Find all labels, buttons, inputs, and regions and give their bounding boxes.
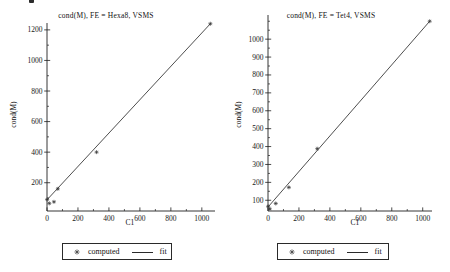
legend-fit-label: fit [375,247,382,256]
legend-computed-label: computed [303,247,335,256]
y-tick-label: 500 [252,124,264,133]
legend-fit-label: fit [160,247,167,256]
legend-computed-label: computed [88,247,120,256]
computed-marker-icon [288,248,296,256]
computed-point [47,201,51,205]
y-tick-label: 600 [252,106,264,115]
plot-area-tet4: 0200400600800100010020030040050060070080… [225,0,450,238]
y-tick-label: 600 [31,117,43,126]
computed-point [287,185,291,189]
y-tick-label: 800 [252,70,264,79]
y-tick-label: 400 [252,142,264,151]
fit-line-sample [347,252,368,253]
y-tick-label: 1000 [28,56,43,65]
y-tick-label: 400 [31,148,43,157]
x-axis-label: C1 [270,218,440,227]
computed-marker-icon [73,248,81,256]
legend-box: computed fit [277,243,389,260]
x-axis-label: C1 [45,218,215,227]
figure-tet4: cond(M), FE = Tet4, VSMS cond(M) 0200400… [225,0,450,272]
fit-line [268,21,430,207]
y-tick-label: 800 [31,87,43,96]
legend-box: computed fit [62,243,172,260]
y-tick-label: 100 [252,196,264,205]
y-tick-label: 1200 [28,25,43,34]
page: cond(M), FE = Hexa8, VSMS cond(M) 020040… [0,0,450,272]
y-tick-label: 900 [252,53,264,62]
y-tick-label: 300 [252,160,264,169]
fit-line [47,24,210,200]
y-tick-label: 1000 [249,35,264,44]
computed-point [274,201,278,205]
figure-hexa8: cond(M), FE = Hexa8, VSMS cond(M) 020040… [0,0,225,272]
y-tick-label: 200 [252,178,264,187]
computed-point [95,150,99,154]
plot-area-hexa8: 0200400600800100020040060080010001200 [0,0,225,238]
y-tick-label: 200 [31,178,43,187]
computed-point [52,200,56,204]
fit-line-sample [132,252,153,253]
y-tick-label: 700 [252,88,264,97]
